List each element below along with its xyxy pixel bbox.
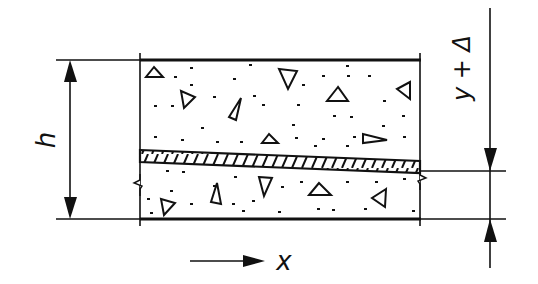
- offset-dimension: [484, 8, 497, 268]
- arrow-right-icon: [243, 255, 265, 267]
- aggregate-dots: [147, 64, 415, 214]
- arrowhead-up-icon: [484, 219, 497, 242]
- height-dimension: [64, 60, 77, 219]
- aggregate-triangles: [146, 67, 410, 215]
- slab-diagram: h y + Δ x: [0, 0, 538, 284]
- reinforcement-bar: [140, 150, 420, 173]
- extension-lines: [56, 60, 506, 219]
- arrowhead-down-icon: [484, 148, 497, 171]
- height-label: h: [31, 132, 61, 148]
- offset-label: y + Δ: [448, 35, 476, 102]
- arrowhead-down-icon: [64, 197, 77, 219]
- x-axis-label: x: [275, 246, 292, 276]
- x-axis-arrow: [190, 255, 265, 267]
- arrowhead-up-icon: [64, 60, 77, 82]
